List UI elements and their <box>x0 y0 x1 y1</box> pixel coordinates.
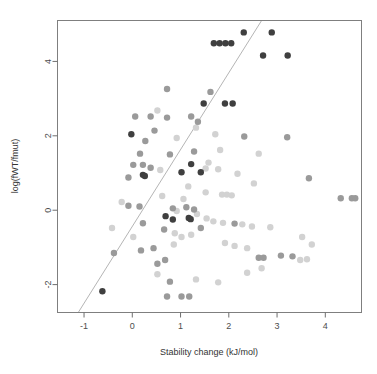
data-point <box>109 225 115 231</box>
data-point <box>132 113 138 119</box>
data-point <box>284 52 290 58</box>
data-point <box>211 40 217 46</box>
data-point <box>198 225 204 231</box>
data-point <box>193 124 199 130</box>
data-point <box>178 293 184 299</box>
data-point <box>151 127 157 133</box>
data-point <box>231 243 237 249</box>
data-point <box>188 113 194 119</box>
data-point <box>304 256 310 262</box>
data-point <box>241 133 247 139</box>
x-tick-label: 2 <box>226 321 231 331</box>
data-point <box>229 192 235 198</box>
data-point <box>147 165 153 171</box>
data-point <box>185 183 191 189</box>
data-point <box>125 174 131 180</box>
data-point <box>154 261 160 267</box>
data-point <box>222 240 228 246</box>
data-point <box>231 220 237 226</box>
data-point <box>138 247 144 253</box>
data-point <box>154 107 160 113</box>
data-point <box>299 234 305 240</box>
data-point <box>99 288 105 294</box>
data-point <box>162 257 168 263</box>
data-point <box>338 195 344 201</box>
data-point <box>278 252 284 258</box>
data-point <box>201 100 207 106</box>
data-point <box>191 148 197 154</box>
data-point <box>284 134 290 140</box>
data-point <box>202 189 208 195</box>
x-tick-label: 4 <box>323 321 328 331</box>
data-point <box>256 150 262 156</box>
data-point <box>193 276 199 282</box>
data-point <box>125 203 131 209</box>
data-point <box>162 213 168 219</box>
data-point <box>130 234 136 240</box>
y-tick-label: 0 <box>43 208 53 213</box>
data-point <box>309 241 315 247</box>
data-point <box>140 162 146 168</box>
data-point <box>258 265 264 271</box>
data-point <box>244 245 250 251</box>
data-point <box>111 250 117 256</box>
data-point <box>128 131 134 137</box>
data-point <box>178 234 184 240</box>
data-point <box>118 199 124 205</box>
data-point <box>164 86 170 92</box>
data-point <box>222 40 228 46</box>
data-point <box>249 223 255 229</box>
data-point <box>216 40 222 46</box>
data-point <box>228 40 234 46</box>
data-point <box>241 29 247 35</box>
data-point <box>289 253 295 259</box>
data-point <box>147 113 153 119</box>
y-tick-label: 2 <box>43 133 53 138</box>
data-point <box>260 255 266 261</box>
data-point <box>220 220 226 226</box>
x-tick-label: 1 <box>178 321 183 331</box>
data-point <box>229 100 235 106</box>
data-point <box>167 151 173 157</box>
data-point <box>215 166 221 172</box>
data-point <box>140 220 146 226</box>
data-point <box>170 216 176 222</box>
data-point <box>173 135 179 141</box>
data-point <box>306 175 312 181</box>
data-point <box>207 89 213 95</box>
data-point <box>215 279 221 285</box>
data-point <box>234 171 240 177</box>
x-axis-title: Stability change (kJ/mol) <box>160 347 258 357</box>
data-point <box>167 278 173 284</box>
data-point <box>142 173 148 179</box>
y-axis-title: log(fWT/fmut) <box>10 139 20 194</box>
data-point <box>180 196 186 202</box>
data-point <box>164 293 170 299</box>
data-point <box>154 271 160 277</box>
data-point <box>186 293 192 299</box>
data-point <box>269 29 275 35</box>
data-point <box>164 114 170 120</box>
data-point <box>159 193 165 199</box>
data-point <box>178 169 184 175</box>
data-point <box>260 52 266 58</box>
data-point <box>205 159 211 165</box>
data-point <box>170 205 176 211</box>
data-point <box>239 221 245 227</box>
y-tick-label: -2 <box>43 281 53 289</box>
data-point <box>244 270 250 276</box>
data-point <box>130 162 136 168</box>
data-point <box>352 195 358 201</box>
data-point <box>212 131 218 137</box>
data-point <box>187 216 193 222</box>
data-point <box>267 224 273 230</box>
data-point <box>210 218 216 224</box>
data-point <box>251 180 257 186</box>
x-tick-label: 3 <box>275 321 280 331</box>
x-tick-label: 0 <box>130 321 135 331</box>
data-point <box>150 245 156 251</box>
data-point <box>217 147 223 153</box>
data-point <box>171 241 177 247</box>
data-point <box>188 161 194 167</box>
data-point <box>183 204 189 210</box>
